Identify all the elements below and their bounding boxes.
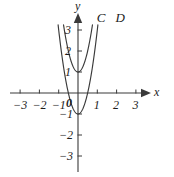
curve-label-D: D: [115, 11, 124, 24]
x-tick-label-3: 3: [132, 99, 138, 111]
x-tick-label--2: −2: [32, 99, 46, 111]
coordinate-plot: [0, 0, 174, 177]
y-tick-label--2: −2: [59, 129, 73, 141]
x-tick-label-1: 1: [94, 99, 100, 111]
x-axis-arrowhead: [141, 89, 151, 97]
y-tick-label-2: 2: [65, 45, 71, 57]
axes-group: [10, 13, 151, 172]
graph-figure: −3−2−1123321−1−2−30xyCD: [0, 0, 174, 177]
curve-label-C: C: [97, 11, 106, 24]
y-axis-name: y: [75, 0, 80, 12]
x-tick-label-2: 2: [113, 99, 119, 111]
y-tick-label-3: 3: [65, 24, 71, 36]
x-axis-name: x: [154, 86, 159, 98]
y-tick-label--3: −3: [59, 150, 73, 162]
origin-label: 0: [66, 97, 72, 109]
y-tick-label-1: 1: [65, 66, 71, 78]
x-tick-label--3: −3: [13, 99, 27, 111]
y-axis-arrowhead: [74, 13, 82, 23]
